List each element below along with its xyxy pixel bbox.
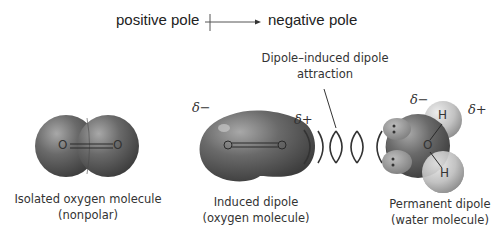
caption-line2: (oxygen molecule) — [196, 210, 316, 226]
water-partial-negative: δ− — [410, 92, 429, 107]
isolated-oxygen-molecule — [35, 115, 139, 177]
atom-label-o-left: O — [58, 138, 67, 152]
caption-line1: Isolated oxygen molecule — [0, 191, 176, 207]
caption-line2: (nonpolar) — [0, 207, 176, 223]
induced-partial-positive: δ+ — [294, 112, 313, 127]
attraction-arcs — [304, 130, 393, 164]
atom-label-oxygen: O — [423, 138, 432, 152]
annotation-line1: Dipole–induced dipole — [252, 50, 398, 66]
atom-label-h-top: H — [438, 108, 447, 122]
caption-permanent-dipole: Permanent dipole (water molecule) — [378, 196, 502, 228]
caption-line1: Permanent dipole — [378, 196, 502, 212]
caption-line2: (water molecule) — [378, 212, 502, 228]
negative-pole-label: negative pole — [268, 11, 357, 28]
caption-induced-dipole: Induced dipole (oxygen molecule) — [196, 194, 316, 226]
positive-pole-label: positive pole — [116, 11, 199, 28]
water-partial-positive: δ+ — [468, 102, 487, 117]
annotation-line2: attraction — [252, 66, 398, 82]
atom-label-o-right: O — [113, 138, 122, 152]
induced-partial-negative: δ− — [192, 100, 211, 115]
caption-line1: Induced dipole — [196, 194, 316, 210]
attraction-annotation: Dipole–induced dipole attraction — [252, 50, 398, 82]
caption-isolated-oxygen: Isolated oxygen molecule (nonpolar) — [0, 191, 176, 223]
atom-label-h-bottom: H — [440, 166, 449, 180]
